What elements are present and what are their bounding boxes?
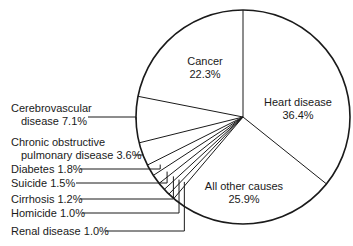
other-label-value: 25.9%	[198, 193, 290, 206]
label-diabetes: Diabetes 1.8%	[11, 163, 83, 176]
leader-line	[88, 117, 136, 120]
label-all-other: All other causes 25.9%	[198, 180, 290, 206]
cerebro-label-line1: Cerebrovascular	[11, 102, 92, 115]
label-cerebrovascular: Cerebrovascular disease 7.1%	[11, 102, 92, 128]
heart-label-name: Heart disease	[258, 96, 338, 109]
cancer-label-value: 22.3%	[175, 68, 235, 81]
copd-label-line1: Chronic obstructive	[11, 136, 141, 149]
copd-label-line2: pulmonary disease 3.6%	[11, 149, 141, 162]
label-cancer: Cancer 22.3%	[175, 55, 235, 81]
label-copd: Chronic obstructive pulmonary disease 3.…	[11, 136, 141, 162]
other-label-name: All other causes	[198, 180, 290, 193]
label-cirrhosis: Cirrhosis 1.2%	[11, 193, 83, 206]
label-renal: Renal disease 1.0%	[11, 225, 109, 238]
label-heart-disease: Heart disease 36.4%	[258, 96, 338, 122]
cerebro-label-line2: disease 7.1%	[11, 115, 92, 128]
heart-label-value: 36.4%	[258, 109, 338, 122]
cancer-label-name: Cancer	[175, 55, 235, 68]
label-suicide: Suicide 1.5%	[11, 177, 75, 190]
label-homicide: Homicide 1.0%	[11, 207, 85, 220]
